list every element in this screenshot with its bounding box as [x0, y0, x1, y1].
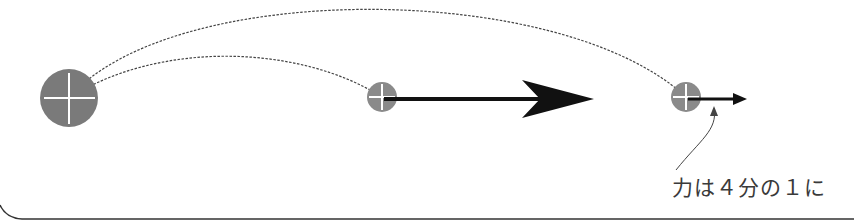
dashed-arc-to-near-body [69, 56, 382, 98]
far-body [671, 82, 701, 112]
source-body [40, 69, 98, 127]
force-quarter-caption: 力は４分の１に [672, 171, 826, 201]
annotation-pointer [676, 106, 718, 170]
panel-border [0, 205, 854, 219]
large-force-arrow [384, 80, 594, 118]
